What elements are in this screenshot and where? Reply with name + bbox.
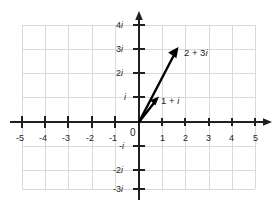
x-tick-label--4: -4	[39, 134, 47, 143]
y-tick-label-2i: 2i	[116, 69, 123, 78]
x-tick-label--2: -2	[86, 134, 94, 143]
y-tick-label--i: -i	[119, 142, 124, 151]
y-tick-label--3i: -3i	[113, 185, 123, 194]
x-tick-label-5: 5	[253, 134, 258, 143]
vector-label-2-plus-3i: 2 + 3i	[184, 48, 208, 58]
x-tick-label-2: 2	[183, 134, 188, 143]
x-tick-label-1: 1	[160, 134, 165, 143]
y-tick-label-3i: 3i	[116, 45, 123, 54]
x-tick-label-3: 3	[206, 134, 211, 143]
vector-2-plus-3i	[139, 47, 179, 122]
complex-plane-plot	[0, 0, 277, 212]
imaginary-axis	[135, 11, 143, 200]
x-tick-label-4: 4	[229, 134, 234, 143]
x-tick-label--5: -5	[16, 134, 24, 143]
x-tick-label--1: -1	[109, 134, 117, 143]
y-tick-label--2i: -2i	[113, 166, 123, 175]
origin-label: 0	[130, 128, 136, 138]
x-tick-label--3: -3	[62, 134, 70, 143]
y-tick-label-4i: 4i	[116, 21, 123, 30]
vector-label-1-plus-i: 1 + i	[161, 96, 179, 106]
y-tick-label-i: i	[124, 93, 126, 102]
argand-diagram-figure: -5 -4 -3 -2 -1 1 2 3 4 5 0 4i 3i 2i i -i…	[0, 0, 277, 212]
